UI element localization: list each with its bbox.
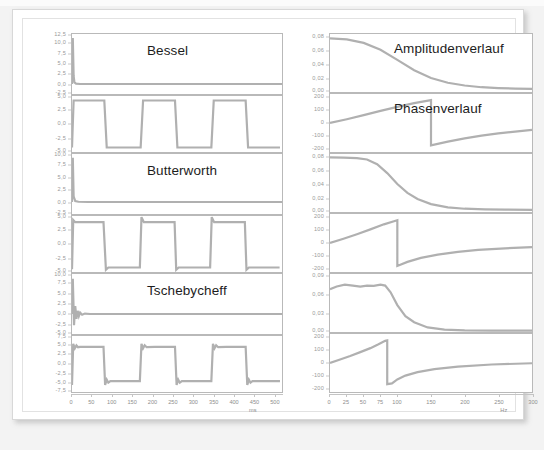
trace-square-overshoot xyxy=(72,217,280,270)
trace-square-ringing xyxy=(72,344,280,385)
plot-area-tschebycheff-phase xyxy=(329,333,533,393)
x-tick-label: 400 xyxy=(229,399,238,405)
y-tick-label: 0,09 xyxy=(312,273,324,279)
y-tick-label: 0,02 xyxy=(312,76,324,82)
trace-phase xyxy=(330,340,532,384)
y-tick-label: 7,5 xyxy=(58,163,66,169)
trace-square-clean xyxy=(72,100,280,147)
y-tick-label: 0 xyxy=(321,360,324,366)
y-axis-bessel-amplitude: 0,080,060,040,020,00 xyxy=(299,33,329,93)
x-tick-mark xyxy=(173,394,174,397)
y-axis-tschebycheff-phase: 2001000-100-200 xyxy=(299,333,329,393)
y-tick-label: -200 xyxy=(312,146,324,152)
y-tick-label: 100 xyxy=(314,227,324,233)
y-axis-bessel-output: 5,02,50,0-2,5-5,0 xyxy=(37,95,71,153)
y-tick-label: 7,5 xyxy=(58,334,66,340)
y-tick-label: 100 xyxy=(314,347,324,353)
y-tick-label: 0,0 xyxy=(58,312,66,318)
x-tick-mark xyxy=(234,394,235,397)
y-tick-label: 0,08 xyxy=(312,34,324,40)
plot-title-tschebycheff-input: Tschebycheff xyxy=(147,283,227,298)
x-tick-mark xyxy=(193,394,194,397)
left-plot-column: 12,510,07,55,02,50,0-2,5Bessel5,02,50,0-… xyxy=(37,33,283,407)
x-tick-label: 250 xyxy=(494,399,503,405)
x-tick-label: 200 xyxy=(460,399,469,405)
y-tick-label: 7,5 xyxy=(58,51,66,57)
y-tick-label: -7,5 xyxy=(56,388,66,394)
x-tick-mark xyxy=(329,394,330,397)
plot-title-bessel-input: Bessel xyxy=(147,43,188,58)
plot-tschebycheff-amplitude: 0,090,060,030,00 xyxy=(299,273,533,333)
y-tick-label: 0 xyxy=(321,120,324,126)
x-tick-mark xyxy=(275,394,276,397)
x-tick-label: 25 xyxy=(343,399,349,405)
y-tick-label: 2,5 xyxy=(58,72,66,78)
plot-bessel-phase: 2001000-100-200Phasenverlauf xyxy=(299,93,533,153)
y-axis-tschebycheff-input: 10,07,55,02,50,0-2,5-5,0 xyxy=(37,273,71,335)
plot-area-tschebycheff-amplitude xyxy=(329,273,533,333)
y-axis-butterworth-input: 10,07,55,02,50,0-2,5 xyxy=(37,153,71,215)
y-tick-label: 0,0 xyxy=(58,121,66,127)
x-tick-label: 150 xyxy=(426,399,435,405)
y-tick-label: 0,02 xyxy=(312,196,324,202)
y-axis-bessel-input: 12,510,07,55,02,50,0-2,5 xyxy=(37,33,71,95)
x-tick-mark xyxy=(214,394,215,397)
x-tick-mark xyxy=(499,394,500,397)
y-tick-label: 0,0 xyxy=(58,200,66,206)
figure-inner-frame: 12,510,07,55,02,50,0-2,5Bessel5,02,50,0-… xyxy=(22,18,516,412)
x-tick-mark xyxy=(254,394,255,397)
y-tick-label: 200 xyxy=(314,334,324,340)
right-x-axis: 0255075100150200250300Hz xyxy=(329,394,533,418)
plot-tschebycheff-phase: 2001000-100-200 xyxy=(299,333,533,393)
plot-tschebycheff-output: 7,55,02,50,0-2,5-5,0-7,5 xyxy=(37,335,283,393)
x-tick-mark xyxy=(397,394,398,397)
plot-bessel-amplitude: 0,080,060,040,020,00Amplitudenverlauf xyxy=(299,33,533,93)
plot-bessel-output: 5,02,50,0-2,5-5,0 xyxy=(37,95,283,153)
y-tick-label: -2,5 xyxy=(56,371,66,377)
x-tick-label: 300 xyxy=(189,399,198,405)
y-tick-label: 5,0 xyxy=(58,94,66,100)
y-tick-label: 2,5 xyxy=(58,227,66,233)
plot-butterworth-amplitude: 0,080,060,040,020,00 xyxy=(299,153,533,213)
y-tick-label: 200 xyxy=(314,94,324,100)
y-tick-label: 0,04 xyxy=(312,62,324,68)
y-axis-tschebycheff-output: 7,55,02,50,0-2,5-5,0-7,5 xyxy=(37,335,71,393)
plot-butterworth-input: 10,07,55,02,50,0-2,5Butterworth xyxy=(37,153,283,215)
y-tick-label: 2,5 xyxy=(58,107,66,113)
trace-phase xyxy=(330,220,532,266)
x-tick-label: 0 xyxy=(327,399,330,405)
x-tick-label: 100 xyxy=(107,399,116,405)
plot-area-butterworth-amplitude xyxy=(329,153,533,213)
y-axis-butterworth-phase: 2001000-100-200 xyxy=(299,213,329,273)
plot-area-bessel-output xyxy=(71,95,283,153)
x-tick-label: 200 xyxy=(148,399,157,405)
y-tick-label: 0 xyxy=(321,240,324,246)
y-tick-label: -2,5 xyxy=(56,322,66,328)
y-tick-label: 200 xyxy=(314,214,324,220)
y-tick-label: -200 xyxy=(312,266,324,272)
x-tick-label: 100 xyxy=(392,399,401,405)
x-tick-label: 0 xyxy=(69,399,72,405)
trace-amplitude xyxy=(330,157,532,209)
y-axis-butterworth-output: 5,02,50,0-2,5-5,0 xyxy=(37,215,71,273)
plot-area-butterworth-phase xyxy=(329,213,533,273)
x-tick-label: 50 xyxy=(88,399,94,405)
x-tick-mark xyxy=(112,394,113,397)
y-tick-label: 0,0 xyxy=(58,82,66,88)
plot-area-butterworth-output xyxy=(71,215,283,273)
y-tick-label: -5,0 xyxy=(56,381,66,387)
y-tick-label: -100 xyxy=(312,133,324,139)
plot-butterworth-output: 5,02,50,0-2,5-5,0 xyxy=(37,215,283,273)
y-tick-label: 12,5 xyxy=(54,32,66,38)
x-tick-label: 300 xyxy=(528,399,537,405)
y-tick-label: 5,0 xyxy=(58,291,66,297)
y-tick-label: 2,5 xyxy=(58,187,66,193)
y-tick-label: 5,0 xyxy=(58,214,66,220)
x-tick-mark xyxy=(380,394,381,397)
y-tick-label: 10,0 xyxy=(54,41,66,47)
y-tick-label: 0,08 xyxy=(312,154,324,160)
y-tick-label: 0,06 xyxy=(312,48,324,54)
y-tick-label: -2,5 xyxy=(56,136,66,142)
x-tick-mark xyxy=(132,394,133,397)
x-tick-label: 500 xyxy=(270,399,279,405)
